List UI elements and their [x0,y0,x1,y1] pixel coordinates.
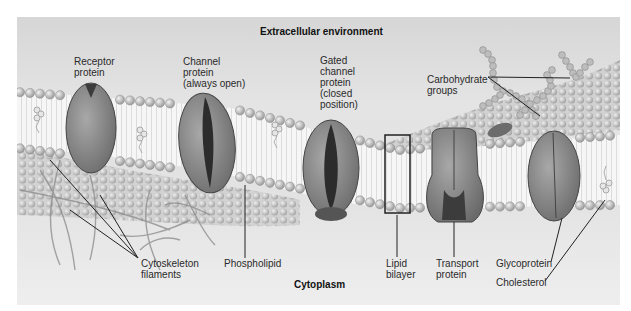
label-receptor-protein: Receptor protein [74,56,115,78]
label-cytoskeleton-filaments: Cytoskeleton filaments [141,258,199,280]
transport-protein [427,128,484,222]
label-gated-channel-protein: Gated channel protein (closed position) [320,55,358,110]
label-transport-protein: Transport protein [436,258,478,280]
gated-channel-protein [303,120,359,221]
label-lipid-bilayer: Lipid bilayer [386,258,415,280]
label-carbohydrate-groups: Carbohydrate groups [427,74,488,96]
label-channel-protein: Channel protein (always open) [183,56,245,89]
diagram-panel: Extracellular environment Receptor prote… [17,17,620,305]
label-cholesterol: Cholesterol [496,277,547,288]
label-phospholipid: Phospholipid [224,258,281,269]
glycoprotein [528,131,580,221]
label-glycoprotein: Glycoprotein [496,258,552,269]
receptor-protein [66,83,116,173]
title-extracellular-environment: Extracellular environment [260,26,383,37]
title-cytoplasm: Cytoplasm [294,279,345,290]
